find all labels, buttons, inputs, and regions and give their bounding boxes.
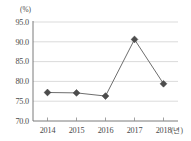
y-tick-label-70: 70.0 bbox=[15, 117, 29, 126]
x-tick-label-2014: 2014 bbox=[40, 126, 56, 135]
x-tick-label-2018: 2018 bbox=[156, 126, 172, 135]
y-axis-unit-label: (%) bbox=[20, 5, 32, 14]
x-tick-label-2016: 2016 bbox=[98, 126, 114, 135]
data-point-2014 bbox=[44, 89, 51, 96]
x-tick-label-2015: 2015 bbox=[69, 126, 85, 135]
y-tick-label-80: 80.0 bbox=[15, 77, 29, 86]
x-tick-labels: 2014 2015 2016 2017 2018 bbox=[40, 126, 172, 135]
y-tick-label-95: 95.0 bbox=[15, 18, 29, 27]
line-chart-figure: (%) 95.0 90.0 85.0 80.0 75.0 70.0 2014 2… bbox=[0, 0, 191, 141]
data-point-2015 bbox=[73, 89, 80, 96]
y-tick-label-85: 85.0 bbox=[15, 57, 29, 66]
x-tick-label-2017: 2017 bbox=[127, 126, 143, 135]
gridlines bbox=[33, 22, 178, 101]
y-tick-label-75: 75.0 bbox=[15, 97, 29, 106]
y-tick-labels: 95.0 90.0 85.0 80.0 75.0 70.0 bbox=[15, 18, 29, 126]
x-axis-unit-label: (년) bbox=[171, 126, 183, 135]
y-tick-label-90: 90.0 bbox=[15, 38, 29, 47]
series-markers bbox=[44, 36, 167, 99]
series-line-path bbox=[48, 39, 164, 96]
x-tick-marks bbox=[48, 118, 164, 122]
chart-canvas: (%) 95.0 90.0 85.0 80.0 75.0 70.0 2014 2… bbox=[0, 0, 191, 141]
data-point-2016 bbox=[102, 93, 109, 100]
